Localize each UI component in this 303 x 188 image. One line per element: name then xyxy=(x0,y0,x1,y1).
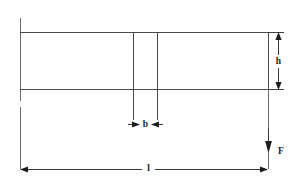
force-arrow-down-icon xyxy=(265,141,272,153)
h-arrow-up-icon xyxy=(275,32,281,40)
diagram-canvas: h b l F xyxy=(0,0,303,188)
force-label: F xyxy=(278,146,284,156)
b-arrow-right-icon xyxy=(132,122,140,128)
b-arrow-left-icon xyxy=(151,122,159,128)
l-arrow-left-icon xyxy=(20,167,28,173)
l-arrow-right-icon xyxy=(260,167,268,173)
h-dimension-label: h xyxy=(276,56,282,66)
h-arrow-down-icon xyxy=(275,82,281,90)
b-dimension-label: b xyxy=(143,119,148,129)
l-dimension-label: l xyxy=(147,163,150,173)
beam-diagram-figure: h b l F xyxy=(0,0,303,188)
